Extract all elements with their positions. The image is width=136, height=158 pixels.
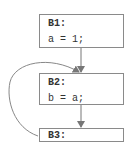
block-b1: B1: a = 1; <box>39 14 124 48</box>
block-b2-title: B2: <box>48 77 66 88</box>
block-b1-title: B1: <box>48 18 66 29</box>
block-b1-code: a = 1; <box>48 34 84 45</box>
block-b2: B2: b = a; <box>39 73 124 105</box>
block-b3: B3: <box>39 128 124 142</box>
block-b3-title: B3: <box>48 130 66 141</box>
block-b2-code: b = a; <box>48 93 84 104</box>
